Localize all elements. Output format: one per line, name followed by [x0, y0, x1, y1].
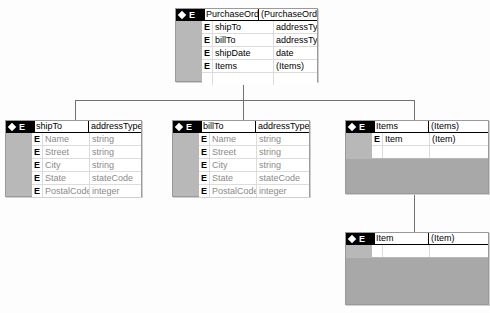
empty-row[interactable] — [372, 146, 488, 158]
element-kind-icon: E — [19, 122, 25, 132]
child-type: string — [257, 159, 309, 171]
child-type: (Items) — [274, 60, 317, 72]
element-kind-icon: E — [32, 185, 43, 197]
child-name: Name — [210, 133, 257, 145]
element-box-shipto[interactable]: E shipTo addressType ENamestring EStreet… — [5, 120, 142, 197]
child-row[interactable]: EStreetstring — [199, 146, 309, 159]
element-diamond-icon — [8, 123, 16, 131]
element-name: Items — [375, 121, 429, 132]
element-kind-icon: E — [359, 122, 365, 132]
element-kind-icon: E — [199, 133, 210, 145]
element-kind-icon: E — [186, 122, 192, 132]
element-diamond-icon — [348, 123, 356, 131]
child-name: shipDate — [213, 47, 274, 59]
connector-shipto — [75, 100, 76, 120]
element-header[interactable]: E Item (Item) — [346, 233, 488, 245]
child-name: Items — [213, 60, 274, 72]
element-header[interactable]: E billTo addressType — [173, 121, 309, 133]
child-type: string — [257, 133, 309, 145]
child-row[interactable]: EPostalCodeinteger — [32, 185, 141, 197]
element-children: EshipToaddressType EbillToaddressType Es… — [202, 21, 317, 85]
element-diamond-icon — [178, 11, 186, 19]
child-row[interactable]: EItem(Item) — [372, 133, 488, 146]
child-row[interactable]: EshipToaddressType — [202, 21, 317, 34]
element-box-items[interactable]: E Items (Items) EItem(Item) — [345, 120, 489, 194]
element-kind-icon: E — [32, 133, 43, 145]
element-kind-icon: E — [199, 146, 210, 158]
child-name: State — [43, 172, 90, 184]
child-row[interactable]: EStatestateCode — [32, 172, 141, 185]
child-type: stateCode — [257, 172, 309, 184]
child-name: City — [210, 159, 257, 171]
child-row[interactable]: ECitystring — [32, 159, 141, 172]
element-kind-icon: E — [32, 172, 43, 184]
child-name: shipTo — [213, 21, 274, 33]
element-kind-icon: E — [202, 60, 213, 72]
child-name: Name — [43, 133, 90, 145]
element-kind-icon: E — [199, 159, 210, 171]
child-row[interactable]: EItems(Items) — [202, 60, 317, 73]
element-name: billTo — [202, 121, 256, 132]
empty-area — [346, 258, 488, 304]
element-kind-icon: E — [202, 34, 213, 46]
empty-row[interactable] — [372, 245, 488, 257]
element-kind-icon: E — [372, 133, 383, 145]
element-children — [372, 245, 488, 257]
element-name: PurchaseOrder — [205, 9, 259, 20]
connector-horizontal — [75, 100, 415, 101]
element-diamond-icon — [175, 123, 183, 131]
child-type: string — [90, 133, 141, 145]
element-kind-icon: E — [199, 172, 210, 184]
element-kind-icon: E — [202, 47, 213, 59]
element-kind-icon: E — [32, 146, 43, 158]
element-children: ENamestring EStreetstring ECitystring ES… — [199, 133, 309, 197]
element-header[interactable]: E PurchaseOrder (PurchaseOrder) — [176, 9, 317, 21]
element-diamond-icon — [348, 235, 356, 243]
element-box-purchaseorder[interactable]: E PurchaseOrder (PurchaseOrder) EshipToa… — [175, 8, 318, 82]
element-type: addressType — [256, 121, 309, 132]
element-header[interactable]: E Items (Items) — [346, 121, 488, 133]
child-name: Street — [210, 146, 257, 158]
connector-billto — [243, 100, 244, 120]
child-row[interactable]: EStreetstring — [32, 146, 141, 159]
child-type: string — [90, 159, 141, 171]
element-kind-icon: E — [359, 234, 365, 244]
child-type: addressType — [274, 21, 317, 33]
empty-row[interactable] — [202, 73, 317, 85]
connector-item — [414, 192, 415, 232]
child-name: billTo — [213, 34, 274, 46]
element-box-item[interactable]: E Item (Item) — [345, 232, 489, 305]
child-type: integer — [90, 185, 141, 197]
child-name: City — [43, 159, 90, 171]
child-name: Item — [383, 133, 430, 145]
element-name: Item — [375, 233, 429, 244]
element-type: (PurchaseOrder) — [259, 9, 317, 20]
element-header[interactable]: E shipTo addressType — [6, 121, 141, 133]
element-type: addressType — [89, 121, 141, 132]
element-children: EItem(Item) — [372, 133, 488, 158]
child-row[interactable]: ECitystring — [199, 159, 309, 172]
child-type: integer — [257, 185, 309, 197]
element-kind-icon: E — [202, 21, 213, 33]
element-name: shipTo — [35, 121, 89, 132]
element-type: (Item) — [429, 233, 488, 244]
child-row[interactable]: EshipDatedate — [202, 47, 317, 60]
child-type: string — [257, 146, 309, 158]
element-box-billto[interactable]: E billTo addressType ENamestring EStreet… — [172, 120, 310, 197]
child-row[interactable]: ENamestring — [199, 133, 309, 146]
child-type: (Item) — [430, 133, 488, 145]
child-type: string — [90, 146, 141, 158]
element-kind-icon: E — [189, 10, 195, 20]
child-type: stateCode — [90, 172, 141, 184]
child-row[interactable]: EStatestateCode — [199, 172, 309, 185]
child-row[interactable]: EbillToaddressType — [202, 34, 317, 47]
child-name: Street — [43, 146, 90, 158]
empty-area — [346, 159, 488, 193]
child-row[interactable]: EPostalCodeinteger — [199, 185, 309, 197]
element-kind-icon: E — [199, 185, 210, 197]
child-type: date — [274, 47, 317, 59]
child-row[interactable]: ENamestring — [32, 133, 141, 146]
child-type: addressType — [274, 34, 317, 46]
connector-items — [414, 100, 415, 120]
element-kind-icon: E — [32, 159, 43, 171]
